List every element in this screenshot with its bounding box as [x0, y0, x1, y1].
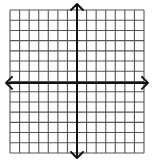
coordinate-plane	[0, 0, 152, 161]
